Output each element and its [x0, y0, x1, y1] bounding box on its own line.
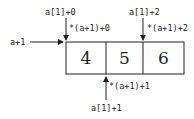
array-cell-1: 5: [119, 48, 130, 68]
array-box: 4 5 6: [66, 42, 184, 74]
top-right-label: a[1]+2: [129, 7, 160, 17]
pointer-array-diagram: 4 5 6 a+1 a[1]+0 *(a+1)+0 a[1]+2 *(a+1)+…: [0, 0, 194, 119]
top-left-deref-label: *(a+1)+0: [69, 23, 110, 33]
array-cell-2: 6: [158, 48, 169, 68]
top-left-arrow: a[1]+0 *(a+1)+0: [45, 7, 110, 40]
row-pointer-arrow: a+1: [10, 37, 63, 47]
top-right-deref-label: *(a+1)+2: [147, 23, 188, 33]
row-pointer-label: a+1: [10, 37, 25, 47]
array-cell-0: 4: [81, 48, 92, 68]
bottom-deref-label: *(a+1)+1: [109, 81, 150, 91]
bottom-label: a[1]+1: [91, 103, 122, 113]
top-right-arrow: a[1]+2 *(a+1)+2: [129, 7, 188, 40]
bottom-arrow: *(a+1)+1 a[1]+1: [91, 77, 150, 113]
top-left-label: a[1]+0: [45, 7, 76, 17]
